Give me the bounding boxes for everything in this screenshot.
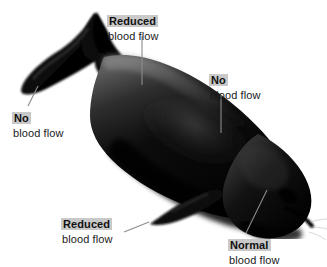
- callout-title: Reduced: [107, 15, 158, 27]
- callout-subtitle: blood flow: [209, 89, 261, 101]
- callout-title: Reduced: [61, 218, 112, 230]
- callout-no-right: No blood flow: [209, 70, 261, 101]
- callout-normal: Normal blood flow: [228, 235, 280, 266]
- callout-title: No: [209, 74, 228, 86]
- callout-title: Normal: [228, 239, 271, 251]
- callout-subtitle: blood flow: [107, 30, 159, 42]
- whale-blood-flow-diagram: Reduced blood flow No blood flow No bloo…: [0, 0, 327, 267]
- callout-subtitle: blood flow: [12, 127, 64, 139]
- callout-subtitle: blood flow: [228, 254, 280, 266]
- callout-title: No: [12, 112, 31, 124]
- callout-reduced-bottom: Reduced blood flow: [61, 214, 113, 245]
- callout-no-tail: No blood flow: [12, 108, 64, 139]
- leader-reduced-bottom: [124, 222, 149, 232]
- callout-subtitle: blood flow: [61, 233, 113, 245]
- callout-reduced-top: Reduced blood flow: [107, 11, 159, 42]
